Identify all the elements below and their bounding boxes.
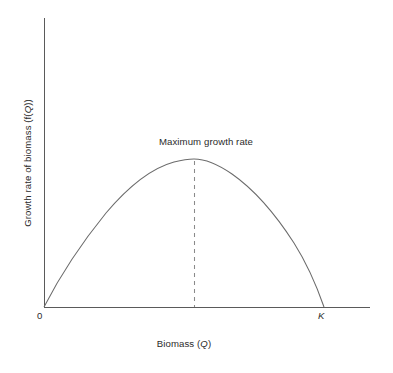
x-axis-label-prefix: Biomass ( <box>157 338 201 349</box>
x-axis-label-variable: Q <box>200 338 208 349</box>
maximum-growth-rate-annotation: Maximum growth rate <box>106 136 306 147</box>
x-axis-label: Biomass (Q) <box>44 338 324 349</box>
x-axis-tick-label-origin: 0 <box>37 310 42 321</box>
y-axis-label-variable: Q <box>22 106 33 114</box>
x-axis-label-suffix: ) <box>208 338 211 349</box>
growth-rate-curve <box>44 159 324 307</box>
x-axis-tick-label-carrying-capacity: K <box>318 310 324 321</box>
y-axis-label-prefix: Growth rate of biomass (f( <box>22 113 33 227</box>
plot-area <box>0 0 393 373</box>
y-axis-label: Growth rate of biomass (f(Q)) <box>22 38 33 288</box>
growth-curve-figure: Growth rate of biomass (f(Q)) Biomass (Q… <box>0 0 393 373</box>
axes-group <box>44 18 370 308</box>
y-axis-label-suffix: )) <box>22 99 33 106</box>
